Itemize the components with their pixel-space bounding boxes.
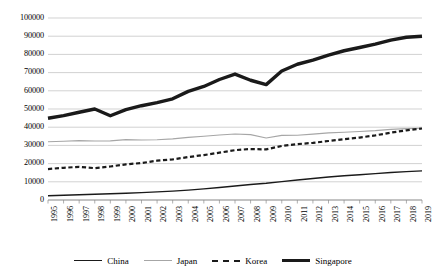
legend-swatch-korea-icon [212,257,240,265]
x-tick-label: 2002 [160,206,168,222]
x-tick-label: 2015 [363,206,371,222]
x-tick-label: 2001 [145,206,153,222]
x-tick-label: 1995 [51,206,59,222]
y-tick-label: 90000 [0,32,44,40]
x-tick-label: 2014 [347,206,355,222]
x-tick-label: 2007 [238,206,246,222]
x-tick-label: 2004 [192,206,200,222]
series-line-china [48,171,422,196]
x-tick-label: 2013 [332,206,340,222]
x-tick-label: 2003 [176,206,184,222]
x-tick-label: 2009 [270,206,278,222]
x-tick-label: 2005 [207,206,215,222]
series-lines [48,36,422,196]
y-tick-label: 70000 [0,68,44,76]
legend-swatch-singapore-icon [282,257,310,265]
y-tick-label: 10000 [0,178,44,186]
series-line-singapore [48,36,422,118]
x-tick-label: 2012 [316,206,324,222]
legend-label-china: China [107,257,129,266]
plot-area: 0100002000030000400005000060000700008000… [0,0,426,246]
x-tick-label: 2016 [379,206,387,222]
legend-swatch-japan-icon [144,257,172,265]
y-tick-label: 60000 [0,87,44,95]
legend-label-japan: Japan [177,257,198,266]
x-tick-label: 2018 [410,206,418,222]
y-tick-label: 30000 [0,141,44,149]
series-line-japan [48,128,422,141]
series-line-korea [48,128,422,169]
x-tick-label: 1996 [67,206,75,222]
y-tick-label: 40000 [0,123,44,131]
x-tick-label: 1997 [83,206,91,222]
chart-legend: China Japan Korea Singapore [0,248,426,274]
legend-item-singapore: Singapore [282,257,352,266]
x-tick-label: 2011 [301,206,309,222]
x-tick-label: 2000 [129,206,137,222]
y-tick-label: 50000 [0,105,44,113]
x-tick-label: 2008 [254,206,262,222]
x-tick-label: 2019 [425,206,433,222]
x-axis-labels: 1995199619971998199920002001200220032004… [0,200,426,246]
legend-item-china: China [74,257,129,266]
x-tick-label: 2010 [285,206,293,222]
y-tick-label: 20000 [0,159,44,167]
y-tick-label: 80000 [0,50,44,58]
x-tick-label: 2006 [223,206,231,222]
legend-item-korea: Korea [212,257,267,266]
legend-label-singapore: Singapore [315,257,352,266]
legend-label-korea: Korea [245,257,267,266]
legend-swatch-china-icon [74,257,102,265]
legend-item-japan: Japan [144,257,198,266]
y-tick-label: 100000 [0,14,44,22]
x-tick-label: 1998 [98,206,106,222]
x-tick-label: 1999 [114,206,122,222]
x-tick-label: 2017 [394,206,402,222]
